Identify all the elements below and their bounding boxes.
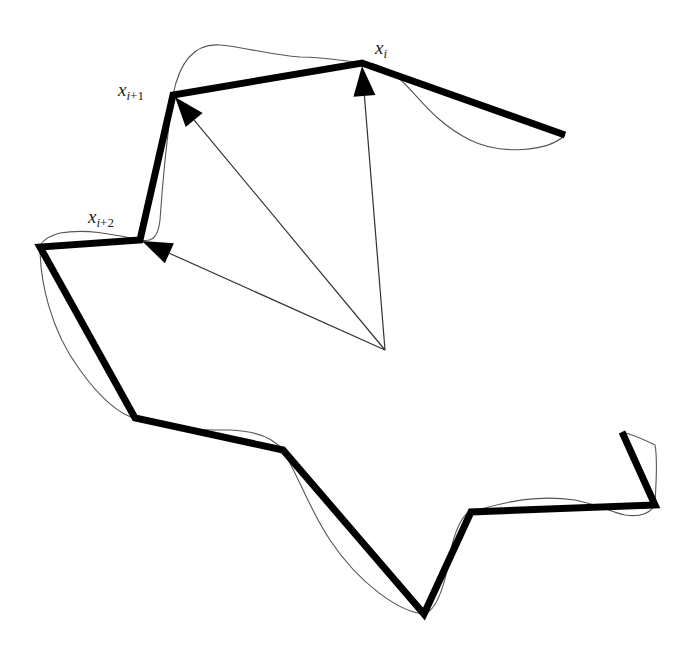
polygon-approximation bbox=[40, 63, 655, 614]
position-vectors bbox=[169, 96, 385, 350]
label-x-i-plus-2: xi+2 bbox=[88, 207, 114, 229]
arrowhead-icon bbox=[175, 97, 203, 127]
label-x-i-plus-1: xi+1 bbox=[118, 80, 144, 102]
label-x-i2-subscript-offset: +2 bbox=[100, 215, 114, 230]
arrowhead-icon bbox=[353, 66, 375, 97]
polygon-vector-diagram bbox=[0, 0, 679, 647]
vector-to-xi2 bbox=[169, 253, 385, 350]
label-x-i1-subscript-offset: +1 bbox=[130, 88, 144, 103]
label-x-i-subscript: i bbox=[383, 46, 387, 61]
vector-to-xi bbox=[364, 96, 385, 350]
label-x-i: xi bbox=[375, 38, 387, 60]
arrowhead-icon bbox=[142, 241, 174, 263]
vector-to-xi1 bbox=[194, 120, 385, 350]
